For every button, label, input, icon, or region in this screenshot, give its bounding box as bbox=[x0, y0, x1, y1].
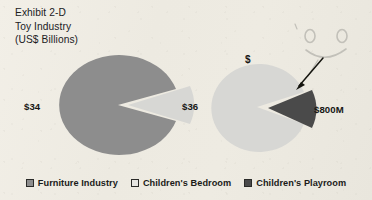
legend-item-furniture-industry: Furniture Industry bbox=[26, 178, 118, 188]
legend-label-childrens-bedroom: Children's Bedroom bbox=[143, 178, 231, 188]
smiley-face-doodle bbox=[295, 24, 347, 76]
legend-item-childrens-playroom: Children's Playroom bbox=[244, 178, 346, 188]
smiley-mouth-icon bbox=[306, 49, 346, 57]
right-pie bbox=[211, 64, 316, 152]
smiley-right-eye-icon bbox=[337, 30, 347, 43]
dollar-mark-label: $ bbox=[245, 54, 251, 65]
smiley-left-eye-icon bbox=[305, 30, 315, 43]
left-pie bbox=[59, 55, 194, 155]
pie-charts-graphic bbox=[0, 0, 372, 200]
legend-label-furniture-industry: Furniture Industry bbox=[38, 178, 118, 188]
exhibit-chart-canvas: Exhibit 2-D Toy Industry (US$ Billions) bbox=[0, 0, 372, 200]
chart-legend: Furniture Industry Children's Bedroom Ch… bbox=[0, 178, 372, 188]
legend-label-childrens-playroom: Children's Playroom bbox=[256, 178, 346, 188]
right-pie-value-label: $36 bbox=[182, 101, 198, 112]
legend-swatch-childrens-bedroom bbox=[131, 179, 139, 187]
callout-arrow-icon bbox=[296, 58, 323, 90]
playroom-callout-label: $800M bbox=[314, 104, 344, 115]
legend-swatch-childrens-playroom bbox=[244, 179, 252, 187]
smiley-tick-mark bbox=[295, 24, 297, 29]
legend-swatch-furniture-industry bbox=[26, 179, 34, 187]
left-pie-value-label: $34 bbox=[24, 101, 40, 112]
legend-item-childrens-bedroom: Children's Bedroom bbox=[131, 178, 231, 188]
